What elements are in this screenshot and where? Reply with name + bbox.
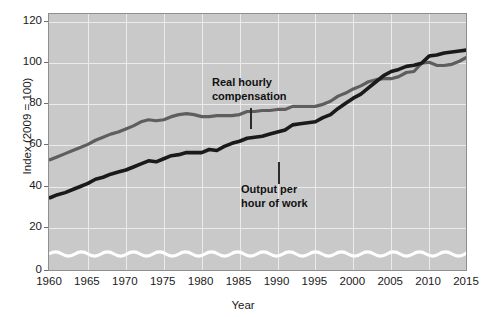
series-line-real-hourly-compensation	[50, 57, 467, 160]
x-axis-tick-label: 1985	[226, 275, 252, 287]
series-lines	[49, 14, 467, 271]
annotation-output-per-hour: Output per hour of work	[241, 183, 308, 211]
leader-line-output-per-hour	[278, 162, 280, 184]
x-axis-tick-label: 1970	[112, 275, 138, 287]
y-axis-tick-label: 80	[0, 96, 42, 108]
y-axis-tick-label: 40	[0, 179, 42, 191]
y-axis-tick-label: 60	[0, 137, 42, 149]
x-axis-tick-label: 1975	[150, 275, 176, 287]
x-axis-tick-label: 2015	[453, 275, 479, 287]
x-axis-tick-label: 1995	[302, 275, 328, 287]
x-axis-tick-label: 2010	[415, 275, 441, 287]
x-axis-tick-label: 1990	[264, 275, 290, 287]
y-axis-tick-label: 20	[0, 220, 42, 232]
y-axis-break-wave	[49, 240, 467, 270]
x-axis-tick-label: 1980	[188, 275, 214, 287]
plot-area: Real hourly compensation Output per hour…	[48, 13, 467, 271]
annotation-real-hourly-compensation: Real hourly compensation	[212, 76, 287, 104]
y-axis-tick-label: 120	[0, 14, 42, 26]
x-axis-tick-label: 2005	[377, 275, 403, 287]
chart-container: Index (2009 = 100) 020406080100120 Real …	[0, 0, 486, 317]
x-axis-title: Year	[0, 299, 486, 311]
leader-line-real-hourly	[250, 108, 252, 129]
y-axis-tick-label: 0	[0, 263, 42, 275]
y-axis-tick-label: 100	[0, 55, 42, 67]
x-axis-tick-label: 1965	[74, 275, 100, 287]
x-axis-tick-label: 1960	[36, 275, 62, 287]
x-axis-tick-label: 2000	[340, 275, 366, 287]
